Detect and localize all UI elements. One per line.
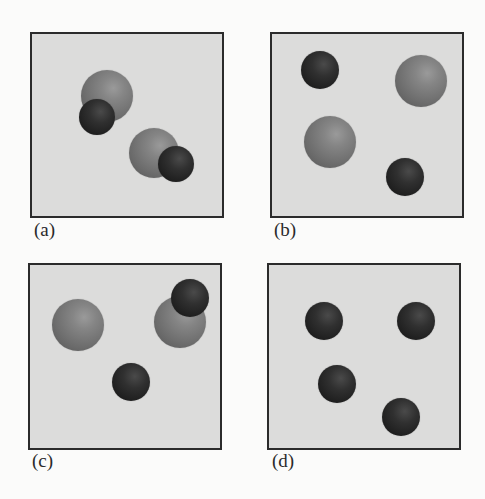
panel-d: [267, 263, 461, 450]
small-atom-icon: [301, 51, 339, 89]
panel-a: [30, 32, 224, 218]
small-atom-icon: [382, 398, 420, 436]
small-atom-icon: [305, 302, 343, 340]
small-atom-icon: [158, 146, 194, 182]
small-atom-icon: [318, 365, 356, 403]
panel-label-b: (b): [274, 219, 296, 241]
large-atom-icon: [52, 299, 104, 351]
small-atom-icon: [79, 99, 115, 135]
panel-label-a: (a): [34, 219, 55, 241]
small-atom-icon: [112, 363, 150, 401]
panel-label-d: (d): [272, 450, 294, 472]
small-atom-icon: [171, 279, 209, 317]
small-atom-icon: [386, 158, 424, 196]
large-atom-icon: [395, 55, 447, 107]
large-atom-icon: [304, 116, 356, 168]
small-atom-icon: [397, 302, 435, 340]
panel-label-c: (c): [32, 450, 53, 472]
